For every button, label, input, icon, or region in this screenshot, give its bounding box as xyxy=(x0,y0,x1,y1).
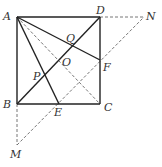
segment-AE xyxy=(17,17,59,104)
segment-AF xyxy=(17,17,100,60)
label-E: E xyxy=(53,106,62,119)
label-O: O xyxy=(62,56,71,69)
label-P: P xyxy=(32,70,41,83)
label-B: B xyxy=(2,98,11,111)
label-Q: Q xyxy=(66,32,75,45)
label-N: N xyxy=(145,10,156,23)
label-M: M xyxy=(9,148,22,161)
geometry-diagram: A B C D E F O P Q M N xyxy=(0,0,162,167)
label-A: A xyxy=(2,10,11,23)
label-D: D xyxy=(95,4,105,17)
label-C: C xyxy=(104,101,113,114)
label-F: F xyxy=(102,61,111,74)
